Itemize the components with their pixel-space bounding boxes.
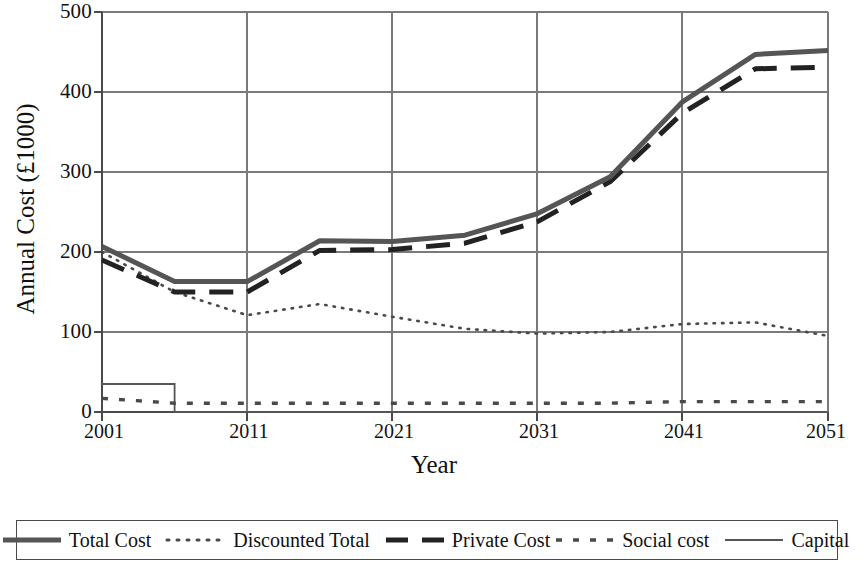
legend-item-social-cost[interactable]: Social cost bbox=[554, 530, 713, 550]
legend-swatch-solid-thick-icon bbox=[1, 533, 63, 547]
legend-label-total-cost: Total Cost bbox=[63, 530, 156, 550]
x-tick-2031: 2031 bbox=[499, 420, 579, 442]
legend-item-discounted-total[interactable]: Discounted Total bbox=[165, 530, 374, 550]
legend-swatch-dashed-thick-icon bbox=[384, 533, 446, 547]
legend-swatch-dash-dot-small-icon bbox=[554, 533, 616, 547]
y-tick-300: 300 bbox=[40, 161, 92, 182]
x-tick-2011: 2011 bbox=[209, 420, 289, 442]
legend-label-capital: Capital bbox=[785, 530, 853, 550]
y-tick-marks bbox=[94, 12, 102, 412]
legend-label-social-cost: Social cost bbox=[616, 530, 713, 550]
chart-legend: Total Cost Discounted Total Private Cost bbox=[16, 520, 838, 560]
y-axis-title: Annual Cost (£1000) bbox=[13, 49, 39, 369]
legend-swatch-dotted-icon bbox=[165, 533, 227, 547]
y-tick-0: 0 bbox=[40, 401, 92, 422]
legend-label-private-cost: Private Cost bbox=[446, 530, 554, 550]
x-axis-title: Year bbox=[0, 452, 868, 478]
y-tick-500: 500 bbox=[40, 1, 92, 22]
legend-item-capital[interactable]: Capital bbox=[723, 530, 853, 550]
series-social-cost bbox=[102, 398, 828, 403]
y-tick-400: 400 bbox=[40, 81, 92, 102]
x-tick-2051: 2051 bbox=[786, 420, 866, 442]
series-private-cost bbox=[102, 67, 828, 292]
legend-item-total-cost[interactable]: Total Cost bbox=[1, 530, 156, 550]
x-tick-2021: 2021 bbox=[354, 420, 434, 442]
y-tick-200: 200 bbox=[40, 241, 92, 262]
series-total-cost bbox=[102, 50, 828, 281]
gridlines bbox=[102, 12, 828, 412]
legend-label-discounted-total: Discounted Total bbox=[227, 530, 374, 550]
y-tick-labels: 500 400 300 200 100 0 bbox=[36, 0, 92, 430]
page-edge bbox=[0, 578, 868, 585]
x-tick-labels: 2001 2011 2021 2031 2041 2051 bbox=[0, 420, 868, 450]
x-tick-2001: 2001 bbox=[64, 420, 144, 442]
x-tick-2041: 2041 bbox=[644, 420, 724, 442]
legend-swatch-solid-thin-icon bbox=[723, 533, 785, 547]
legend-item-private-cost[interactable]: Private Cost bbox=[384, 530, 554, 550]
plot-area: 500 400 300 200 100 0 2001 2011 2021 203… bbox=[0, 0, 868, 500]
chart-figure: 500 400 300 200 100 0 2001 2011 2021 203… bbox=[0, 0, 868, 585]
y-tick-100: 100 bbox=[40, 321, 92, 342]
axis-spines bbox=[102, 12, 828, 412]
series-capital bbox=[102, 384, 828, 412]
